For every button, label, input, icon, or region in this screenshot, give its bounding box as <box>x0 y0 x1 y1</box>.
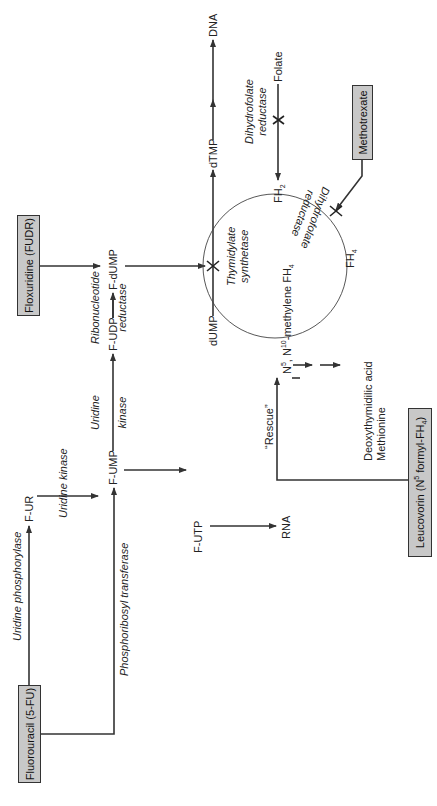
dna-label: DNA <box>207 14 219 37</box>
uridine-kinase-label-1: Uridine kinase <box>57 448 69 518</box>
n5n10-methylene-fh4-label: N5, N10-methylene FH4 <box>278 264 298 374</box>
phosphoribosyl-transferase-label: Phosphoribosyl transferase <box>118 543 130 676</box>
f-ur-label: F-UR <box>23 496 35 522</box>
uridine-kinase-label-2: Uridine kinase <box>89 395 129 430</box>
floxuridine-box: Floxuridine (FUDR) <box>17 215 40 316</box>
uridine-phosphorylase-label: Uridine phosphorylase <box>11 532 23 641</box>
fh4-label: FH4 <box>344 249 361 268</box>
dihydrofolate-reductase-label: Dihydrofolate reductase <box>243 79 269 144</box>
rescue-label: “Rescue” <box>263 404 275 449</box>
dump-label: dUMP <box>207 315 219 346</box>
f-ump-label: F-UMP <box>107 450 119 485</box>
pathway-diagram: Fluorouracil (5-FU) Floxuridine (FUDR) M… <box>0 0 437 806</box>
f-utp-label: F-UTP <box>192 521 204 553</box>
ribonucleotide-reductase-label: Ribonucleotide reductase <box>89 271 129 344</box>
dtmp-label: dTMP <box>207 139 219 168</box>
fluorouracil-box: Fluorouracil (5-FU) <box>18 685 41 783</box>
fh2-label: FH2 <box>272 184 289 203</box>
thymidylate-synthetase-label: Thymidylate synthetase <box>225 227 251 286</box>
methotrexate-box: Methotrexate <box>352 85 373 160</box>
products-label: Deoxythymidilic acid Methionine <box>362 361 388 461</box>
folate-label: Folate <box>272 51 284 82</box>
leucovorin-box: Leucovorin (N5 formyl-FH4) <box>408 408 432 557</box>
rna-label: RNA <box>280 516 292 539</box>
